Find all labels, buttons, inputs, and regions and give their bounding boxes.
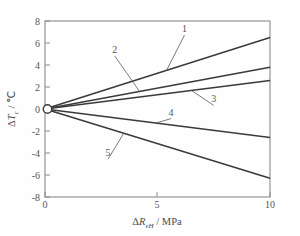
data-line-3	[45, 80, 270, 109]
y-axis-units: / ℃	[6, 91, 17, 111]
curve-label-1: 1	[182, 23, 187, 34]
origin-marker	[43, 105, 51, 113]
plot-svg: 1 2 3 4 5 8 6 4 2 0 -2 -4 -6 -8 0 5 10 Δ…	[0, 0, 300, 236]
data-line-4	[45, 109, 270, 138]
leader-line-4	[155, 119, 171, 124]
chart-figure: 1 2 3 4 5 8 6 4 2 0 -2 -4 -6 -8 0 5 10 Δ…	[0, 0, 300, 236]
curve-label-4: 4	[169, 107, 174, 118]
y-tick-label-m6: -6	[32, 170, 40, 181]
x-axis-units: / MPa	[154, 216, 182, 227]
curve-label-3: 3	[211, 93, 216, 104]
curve-label-5: 5	[106, 147, 111, 158]
x-tick-label-0: 0	[43, 199, 48, 210]
y-tick-label-m4: -4	[32, 148, 40, 159]
x-axis-ticks	[45, 192, 270, 197]
y-tick-label-2: 2	[35, 82, 40, 93]
x-tick-label-5: 5	[155, 199, 160, 210]
y-tick-label-6: 6	[35, 38, 40, 49]
data-line-5	[45, 109, 270, 178]
x-tick-label-10: 10	[265, 199, 275, 210]
y-tick-label-m2: -2	[32, 126, 40, 137]
x-axis-title: ΔReH / MPa	[132, 216, 182, 230]
y-tick-label-4: 4	[35, 60, 40, 71]
y-tick-label-m8: -8	[32, 192, 40, 203]
y-axis-title: ΔTc / ℃	[6, 91, 20, 127]
curve-label-2: 2	[112, 44, 117, 55]
plot-frame	[45, 21, 270, 197]
y-tick-label-8: 8	[35, 16, 40, 27]
y-tick-label-0: 0	[35, 104, 40, 115]
